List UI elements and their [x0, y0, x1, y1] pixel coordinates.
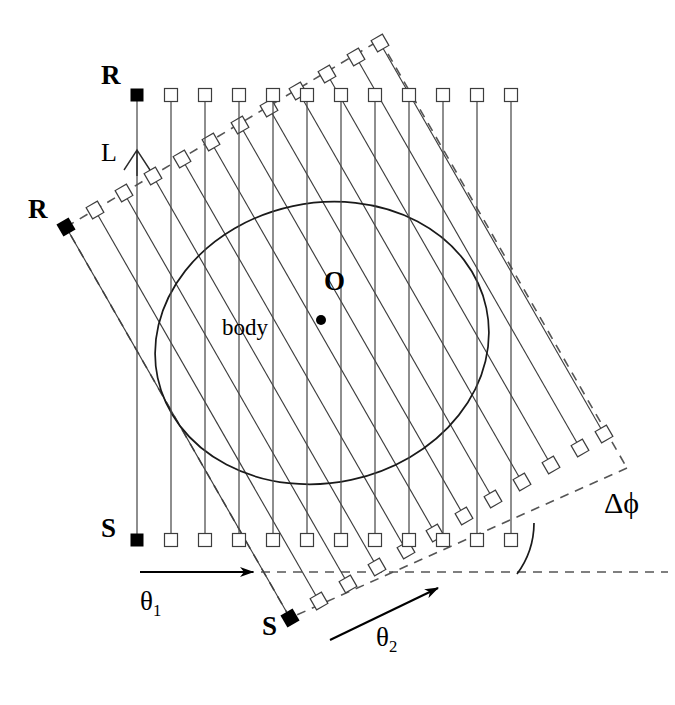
- label-body: body: [222, 316, 268, 339]
- slanted-ray-group: [66, 43, 604, 618]
- source-marker-vertical-filled: [131, 534, 144, 547]
- label-source-slanted: S: [262, 613, 277, 640]
- delta-phi-arc: [517, 523, 534, 574]
- origin-dot: [316, 315, 326, 325]
- source-marker-slanted-filled: [280, 608, 299, 627]
- label-receiver-slanted: R: [28, 196, 48, 223]
- label-receiver-vertical: R: [101, 62, 121, 89]
- diagram-svg: [0, 0, 675, 705]
- label-theta1-subscript: 1: [153, 601, 161, 620]
- label-delta-phi: Δϕ: [604, 488, 639, 518]
- slanted-scan-boundary: [66, 40, 627, 618]
- slanted-source-markers: [310, 425, 613, 610]
- label-theta1: θ1: [140, 588, 161, 620]
- label-theta2-base: θ: [376, 622, 389, 652]
- label-theta2-subscript: 2: [389, 637, 397, 656]
- label-ray-length: L: [101, 140, 117, 166]
- body-ellipse: [129, 171, 516, 515]
- vertical-receiver-markers: [165, 89, 518, 102]
- figure-canvas: R R S S L body O θ1 θ2 Δϕ: [0, 0, 675, 705]
- receiver-marker-slanted-filled: [56, 217, 75, 236]
- receiver-marker-vertical-filled: [131, 89, 144, 102]
- label-source-vertical: S: [101, 515, 116, 542]
- label-origin: O: [324, 268, 345, 295]
- label-theta2: θ2: [376, 624, 397, 656]
- label-theta1-base: θ: [140, 586, 153, 616]
